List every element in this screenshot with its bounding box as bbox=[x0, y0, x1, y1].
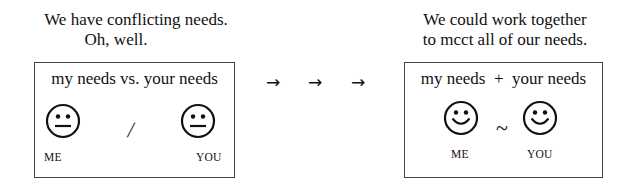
arrow-icon-3: → bbox=[351, 72, 365, 92]
right-caption-line1: We could work together bbox=[410, 10, 600, 30]
smiling-face-icon-me bbox=[443, 100, 479, 136]
left-box-title: my needs vs. your needs bbox=[35, 69, 234, 89]
neutral-face-icon-you bbox=[180, 103, 216, 139]
right-label-you: YOU bbox=[527, 148, 553, 160]
arrow-icon-2: → bbox=[308, 72, 322, 92]
right-separator-tilde: ~ bbox=[496, 115, 508, 141]
right-label-me: ME bbox=[451, 148, 469, 160]
left-label-you: YOU bbox=[196, 151, 222, 163]
right-box: my needs + your needs ~ ME YOU bbox=[404, 62, 603, 178]
arrow-icon-1: → bbox=[266, 72, 280, 92]
left-caption: We have conflicting needs. Oh, well. bbox=[36, 10, 236, 50]
smiling-face-icon-you bbox=[522, 100, 558, 136]
neutral-face-icon-me bbox=[45, 103, 81, 139]
left-label-me: ME bbox=[44, 151, 62, 163]
right-box-title: my needs + your needs bbox=[405, 69, 602, 89]
left-separator-slash: / bbox=[126, 117, 137, 143]
right-caption-line2: to mcct all of our needs. bbox=[410, 30, 600, 50]
left-caption-line1: We have conflicting needs. bbox=[36, 10, 236, 30]
left-box: my needs vs. your needs / ME YOU bbox=[34, 62, 235, 178]
left-caption-line2: Oh, well. bbox=[36, 30, 236, 50]
right-caption: We could work together to mcct all of ou… bbox=[410, 10, 600, 50]
